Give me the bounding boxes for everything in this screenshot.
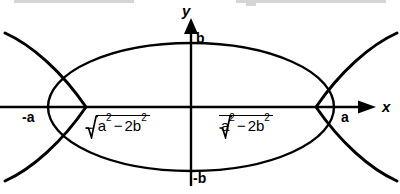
left-radicand: a2−2b2 <box>96 115 150 133</box>
right-term2-exponent: 2 <box>264 112 270 123</box>
right-radical: a2−2b2 <box>219 115 273 133</box>
tick-label-neg-a: -a <box>22 110 34 124</box>
top-crop-artifact <box>14 0 386 6</box>
tick-label-a: a <box>341 110 349 124</box>
tick-label-b: b <box>196 31 205 45</box>
right-intersection-expression: a2−2b2 <box>219 115 273 133</box>
right-term2-base: 2b <box>248 117 265 134</box>
left-radical-sign-icon <box>85 115 98 139</box>
y-axis-label: y <box>182 3 190 18</box>
x-axis-label: x <box>382 99 390 114</box>
math-figure: y x b -b a -a − a2−2b2 a2−2b2 <box>0 0 400 194</box>
left-term1-exponent: 2 <box>106 112 112 123</box>
left-radical: a2−2b2 <box>96 115 150 133</box>
left-term2-base: 2b <box>124 117 141 134</box>
left-intersection-expression: − a2−2b2 <box>85 115 150 135</box>
left-term2-exponent: 2 <box>141 112 147 123</box>
right-operator: − <box>235 117 248 134</box>
x-axis-arrowhead <box>358 101 376 114</box>
left-term1-base: a <box>98 117 106 134</box>
tick-label-neg-b: -b <box>193 171 206 185</box>
left-operator: − <box>112 117 125 134</box>
right-term1-exponent: 2 <box>229 112 235 123</box>
